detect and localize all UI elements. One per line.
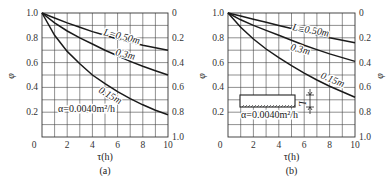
y-tick-left: 0.2	[26, 107, 38, 117]
y-tick-right: 0.2	[172, 33, 184, 43]
panel-caption: (a)	[99, 165, 110, 177]
y-tick-left: 1.0	[26, 8, 38, 18]
y-tick-right: 0.6	[172, 82, 184, 92]
panel-caption: (b)	[286, 165, 298, 177]
y-tick-left: 0.4	[26, 82, 38, 92]
x-tick-label: 2	[251, 140, 256, 150]
y-tick-left: 1.0	[212, 8, 224, 18]
y-axis-label-left: φ	[5, 73, 16, 79]
y-tick-right: 0.8	[172, 107, 184, 117]
y-tick-left: 0.8	[212, 33, 224, 43]
x-tick-label: 6	[115, 140, 120, 150]
y-axis-label-right: φ	[374, 73, 385, 79]
y-tick-left: 0.6	[212, 58, 224, 68]
y-tick-right: 0.4	[172, 58, 184, 68]
x-axis-label: τ(h)	[284, 151, 300, 163]
x-tick-label: 0	[32, 140, 37, 150]
y-tick-left: 0.6	[26, 58, 38, 68]
alpha-annotation: α=0.0040m²/h	[58, 103, 115, 114]
x-tick-label: 2	[65, 140, 70, 150]
y-axis-label-left: φ	[196, 73, 207, 79]
y-tick-right: 0	[172, 8, 177, 18]
x-tick-label: 8	[327, 140, 332, 150]
x-tick-label: 4	[276, 140, 281, 150]
x-axis-label: τ(h)	[97, 151, 113, 163]
y-tick-left: 0.4	[212, 82, 224, 92]
curve-label: L=0.50m	[102, 26, 142, 46]
y-tick-right: 0.2	[359, 33, 371, 43]
y-tick-right: 1.0	[359, 132, 371, 142]
x-tick-label: 4	[90, 140, 95, 150]
x-tick-label: 6	[302, 140, 307, 150]
y-tick-right: 0.4	[359, 58, 371, 68]
y-tick-right: 0	[359, 8, 364, 18]
x-tick-label: 8	[140, 140, 145, 150]
curve-label: 0.3m	[290, 41, 312, 56]
chart-panel-b: 02468101.00.80.60.40.200.20.40.60.81.0L=…	[196, 8, 385, 177]
y-tick-right: 0.8	[359, 107, 371, 117]
x-tick-label: 0	[218, 140, 223, 150]
alpha-annotation: α=0.0040m²/h	[241, 109, 298, 120]
y-tick-right: 1.0	[172, 132, 184, 142]
y-tick-left: 0.8	[26, 33, 38, 43]
inset-L-label: L	[297, 100, 308, 107]
chart-panel-a: 02468101.00.80.60.40.200.20.40.60.81.0L=…	[5, 8, 184, 177]
figure: 02468101.00.80.60.40.200.20.40.60.81.0L=…	[0, 0, 392, 185]
y-tick-left: 0.2	[212, 107, 224, 117]
y-tick-right: 0.6	[359, 82, 371, 92]
curve-label: L=0.50m	[291, 21, 330, 38]
